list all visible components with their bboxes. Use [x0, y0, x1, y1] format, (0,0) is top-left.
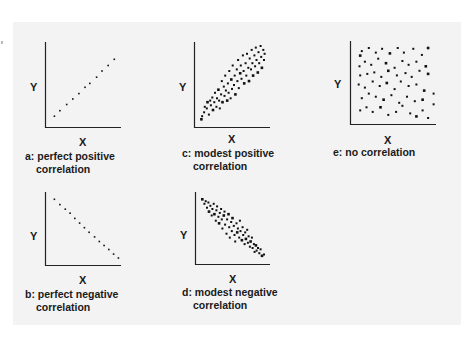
data-point: [236, 80, 238, 82]
data-point: [213, 213, 216, 216]
data-point: [229, 237, 231, 239]
data-point: [359, 65, 361, 67]
data-point: [263, 254, 265, 256]
data-point: [257, 71, 260, 74]
data-point: [204, 106, 206, 108]
data-point: [213, 101, 215, 103]
data-point: [96, 76, 98, 78]
data-point: [211, 97, 213, 99]
data-point: [210, 104, 212, 106]
data-point: [394, 88, 396, 90]
data-point: [238, 87, 240, 89]
data-point: [364, 61, 366, 63]
data-point: [390, 94, 392, 96]
data-point: [427, 73, 430, 76]
data-point: [242, 234, 244, 236]
panel-e-y-label: Y: [334, 78, 341, 90]
data-point: [113, 253, 115, 255]
data-point: [248, 80, 251, 83]
data-point: [368, 93, 370, 95]
panel-c-y-label: Y: [179, 81, 186, 93]
data-point: [211, 215, 213, 217]
data-point: [218, 100, 220, 102]
panel-e-x-label: X: [384, 134, 391, 146]
panel-b-caption: b: perfect negative correlation: [25, 288, 118, 313]
data-point: [422, 109, 424, 111]
data-point: [101, 70, 103, 72]
data-point: [65, 208, 67, 210]
data-point: [230, 221, 232, 223]
data-point: [400, 81, 402, 83]
data-point: [372, 111, 374, 113]
data-point: [361, 50, 363, 52]
data-point: [230, 97, 232, 99]
data-point: [239, 220, 241, 222]
data-point: [364, 87, 366, 89]
data-point: [251, 62, 253, 64]
data-point: [206, 207, 208, 209]
panel-a-x-label: X: [79, 136, 86, 148]
data-point: [205, 200, 207, 202]
data-point: [245, 62, 247, 64]
data-point: [118, 257, 120, 259]
data-point: [208, 210, 211, 213]
panel-d-plot: [195, 192, 270, 265]
data-point: [397, 47, 399, 49]
data-point: [221, 101, 224, 104]
data-point: [260, 56, 262, 58]
data-point: [59, 110, 61, 112]
data-point: [224, 224, 226, 226]
data-point: [375, 96, 377, 98]
data-point: [236, 68, 238, 70]
data-point: [248, 235, 250, 237]
data-point: [236, 231, 239, 234]
data-point: [216, 205, 218, 207]
data-point: [207, 202, 209, 204]
data-point: [258, 51, 260, 53]
panel-d-y-label: Y: [180, 229, 187, 241]
data-point: [234, 75, 236, 77]
data-point: [234, 241, 236, 243]
data-point: [411, 76, 413, 78]
data-point: [244, 231, 246, 233]
data-point: [223, 214, 226, 217]
data-point: [232, 65, 234, 67]
data-point: [233, 225, 235, 227]
data-point: [412, 48, 414, 50]
data-point: [201, 115, 203, 117]
data-point: [381, 48, 383, 50]
data-point: [260, 45, 262, 47]
panel-c-plot: [194, 42, 270, 128]
panel-b-x-label: X: [79, 274, 86, 286]
data-point: [237, 228, 239, 230]
data-point: [212, 109, 215, 112]
data-point: [223, 86, 225, 88]
data-point: [258, 62, 260, 64]
panel-e-caption: e: no correlation: [333, 146, 415, 159]
data-point: [239, 72, 242, 75]
data-point: [258, 252, 260, 254]
data-point: [247, 242, 249, 244]
axes: [46, 192, 122, 266]
data-point: [387, 70, 390, 73]
data-point: [231, 230, 233, 232]
data-point: [200, 118, 203, 121]
panel-c-x-label: X: [228, 133, 235, 145]
axes: [351, 41, 437, 125]
data-point: [221, 218, 223, 220]
data-point: [59, 204, 61, 206]
data-point: [54, 199, 56, 201]
data-point: [377, 58, 379, 60]
panel-c-modest-positive: [194, 42, 270, 128]
data-point: [249, 246, 251, 248]
data-point: [250, 68, 252, 70]
panel-a-y-label: Y: [30, 81, 37, 93]
data-point: [78, 93, 80, 95]
data-point: [358, 84, 360, 86]
data-point: [398, 102, 400, 104]
data-point: [215, 220, 217, 222]
panel-a-caption-line1: a: perfect positive: [25, 150, 115, 162]
data-point: [243, 82, 246, 85]
panel-d-caption-line2: correlation: [182, 299, 278, 312]
data-point: [421, 98, 424, 101]
